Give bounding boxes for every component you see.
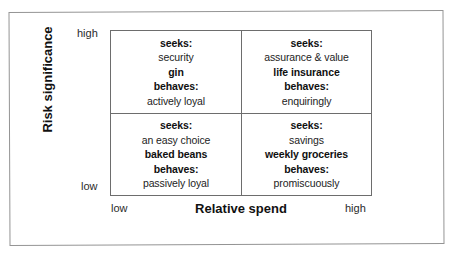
quadrant-bottom-right-behaves-value: promiscuously bbox=[274, 176, 340, 191]
quadrant-bottom-right-seeks-label: seeks: bbox=[290, 118, 322, 133]
matrix-figure: Risk significance high low seeks: securi… bbox=[0, 0, 453, 257]
quadrant-bottom-left-seeks-value: an easy choice bbox=[142, 133, 211, 148]
quadrant-bottom-right-seeks-value: savings bbox=[289, 133, 324, 148]
quadrant-bottom-right: seeks: savings weekly groceries behaves:… bbox=[241, 113, 371, 195]
x-axis-title: Relative spend bbox=[110, 201, 372, 216]
quadrant-top-left: seeks: security gin behaves: actively lo… bbox=[111, 31, 241, 113]
quadrant-top-left-behaves-label: behaves: bbox=[154, 79, 199, 94]
y-axis-high-label: high bbox=[77, 27, 98, 39]
quadrant-top-right-product: life insurance bbox=[273, 65, 339, 80]
quadrant-top-left-seeks-value: security bbox=[158, 50, 193, 65]
quadrant-bottom-left: seeks: an easy choice baked beans behave… bbox=[111, 113, 241, 195]
quadrant-bottom-left-behaves-value: passively loyal bbox=[143, 176, 209, 191]
quadrant-bottom-left-behaves-label: behaves: bbox=[154, 162, 199, 177]
quadrant-top-left-seeks-label: seeks: bbox=[160, 36, 192, 51]
quadrant-bottom-right-behaves-label: behaves: bbox=[284, 162, 329, 177]
y-axis-title: Risk significance bbox=[40, 5, 55, 155]
y-axis-low-label: low bbox=[81, 180, 98, 192]
quadrant-top-right-behaves-value: enquiringly bbox=[282, 94, 332, 109]
x-axis-high-label: high bbox=[345, 202, 366, 214]
quadrant-top-left-behaves-value: actively loyal bbox=[147, 94, 205, 109]
matrix-grid: seeks: security gin behaves: actively lo… bbox=[110, 30, 372, 196]
quadrant-top-right-seeks-label: seeks: bbox=[290, 36, 322, 51]
quadrant-top-right-seeks-value: assurance & value bbox=[264, 50, 349, 65]
quadrant-top-left-product: gin bbox=[168, 65, 183, 80]
quadrant-bottom-left-product: baked beans bbox=[145, 147, 208, 162]
quadrant-top-right: seeks: assurance & value life insurance … bbox=[241, 31, 371, 113]
quadrant-bottom-right-product: weekly groceries bbox=[265, 147, 348, 162]
quadrant-bottom-left-seeks-label: seeks: bbox=[160, 118, 192, 133]
quadrant-top-right-behaves-label: behaves: bbox=[284, 79, 329, 94]
